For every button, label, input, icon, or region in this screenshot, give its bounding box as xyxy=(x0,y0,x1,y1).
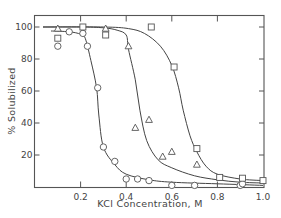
y-tick-label: 100 xyxy=(15,22,32,32)
fit-curves xyxy=(43,27,263,186)
data-point-triangle xyxy=(132,124,139,130)
data-point-square xyxy=(55,35,61,41)
y-axis-label: % Solubilized xyxy=(6,67,17,134)
x-tick-label: 0.8 xyxy=(210,192,225,202)
data-point-triangle xyxy=(125,43,132,49)
data-point-circle xyxy=(66,29,72,35)
data-point-square xyxy=(103,32,109,38)
axis-ticks xyxy=(35,16,265,188)
data-point-circle xyxy=(55,43,61,49)
fit-curve-circles xyxy=(51,31,263,185)
chart: 0.20.40.60.81.0 20406080100 KCl Concentr… xyxy=(0,0,281,218)
data-point-square xyxy=(217,174,223,180)
data-point-circle xyxy=(112,158,118,164)
data-point-square xyxy=(239,175,245,181)
plot-frame xyxy=(35,16,265,188)
data-point-circle xyxy=(169,182,175,188)
data-point-circle xyxy=(146,177,152,183)
data-point-triangle xyxy=(146,116,153,122)
y-tick-label: 60 xyxy=(21,86,33,96)
data-point-circle xyxy=(95,85,101,91)
fit-curve-triangles xyxy=(43,27,263,183)
y-tick-label: 80 xyxy=(21,54,33,64)
data-point-square xyxy=(194,146,200,152)
data-point-triangle xyxy=(159,153,166,159)
data-markers xyxy=(54,24,266,189)
data-point-square xyxy=(171,64,177,70)
data-point-triangle xyxy=(168,148,175,154)
data-point-circle xyxy=(123,176,129,182)
x-axis-label: KCl Concentration, M xyxy=(97,198,202,209)
y-tick-labels: 20406080100 xyxy=(15,22,32,160)
data-point-square xyxy=(80,24,86,30)
data-point-square xyxy=(260,178,266,184)
data-point-circle xyxy=(84,43,90,49)
fit-curve-squares xyxy=(43,27,263,181)
data-point-circle xyxy=(100,144,106,150)
data-point-triangle xyxy=(193,161,200,167)
data-point-circle xyxy=(191,182,197,188)
x-tick-label: 0.2 xyxy=(73,192,87,202)
data-point-circle xyxy=(134,176,140,182)
y-tick-label: 20 xyxy=(21,150,33,160)
y-tick-label: 40 xyxy=(21,118,33,128)
x-tick-label: 1.0 xyxy=(256,192,271,202)
data-point-square xyxy=(148,24,154,30)
data-point-triangle xyxy=(54,25,61,31)
data-point-circle xyxy=(80,30,86,36)
